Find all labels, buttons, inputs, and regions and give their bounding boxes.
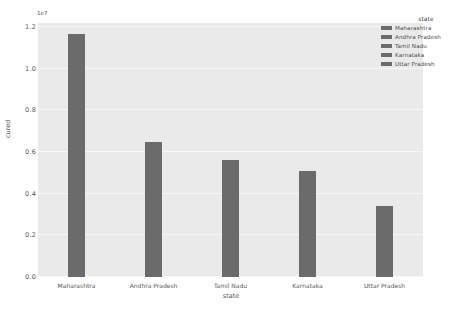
y-tick-label: 0.6 [6, 148, 36, 156]
bar [145, 142, 162, 277]
x-tick-label: Maharashtra [58, 282, 96, 289]
bar [222, 160, 239, 277]
legend: state MaharashtraAndhra PradeshTamil Nad… [381, 16, 459, 69]
y-axis-offset-text: 1e7 [37, 10, 47, 16]
x-tick-label: Tamil Nadu [214, 282, 247, 289]
y-tick-label: 0.0 [6, 273, 36, 281]
x-tick-label: Karnataka [292, 282, 322, 289]
legend-item: Uttar Pradesh [381, 60, 459, 68]
bars-group [38, 23, 423, 277]
y-axis-label: cured [4, 120, 12, 138]
legend-swatch [381, 35, 392, 39]
chart-figure: 1e7 cured 0.00.20.40.60.81.01.2 Maharash… [0, 0, 463, 316]
bar [68, 34, 85, 277]
x-tick-label: Andhra Pradesh [130, 282, 178, 289]
legend-entries: MaharashtraAndhra PradeshTamil NaduKarna… [381, 24, 459, 68]
legend-label: Karnataka [395, 52, 424, 58]
legend-item: Tamil Nadu [381, 42, 459, 50]
y-tick-label: 1.2 [6, 23, 36, 31]
bar [376, 206, 393, 277]
y-tick-label: 0.8 [6, 106, 36, 114]
legend-swatch [381, 62, 392, 66]
legend-label: Tamil Nadu [395, 43, 427, 49]
legend-item: Maharashtra [381, 24, 459, 32]
x-tick-label: Uttar Pradesh [364, 282, 405, 289]
legend-swatch [381, 44, 392, 48]
legend-title: state [393, 16, 459, 22]
legend-item: Andhra Pradesh [381, 33, 459, 41]
x-axis-label: state [223, 292, 239, 300]
legend-item: Karnataka [381, 51, 459, 59]
legend-label: Uttar Pradesh [395, 61, 435, 67]
plot-area [38, 23, 423, 277]
legend-swatch [381, 53, 392, 57]
y-tick-label: 1.0 [6, 65, 36, 73]
legend-label: Maharashtra [395, 25, 431, 31]
y-tick-label: 0.2 [6, 231, 36, 239]
legend-label: Andhra Pradesh [395, 34, 441, 40]
y-tick-label: 0.4 [6, 190, 36, 198]
bar [299, 171, 316, 277]
legend-swatch [381, 26, 392, 30]
